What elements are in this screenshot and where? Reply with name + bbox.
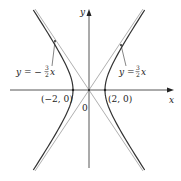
asymptote-negative-label: y = − 3 2 x [15, 64, 55, 78]
svg-text:y =: y = [118, 67, 135, 77]
svg-text:3: 3 [136, 64, 140, 71]
svg-text:x: x [141, 67, 146, 77]
vertex-right-point [104, 89, 106, 91]
y-axis-label: y [79, 7, 86, 17]
svg-text:2: 2 [45, 71, 49, 78]
vertex-left-label: (−2, 0) [41, 94, 73, 104]
asymptote-positive-label: y = 3 2 x [118, 64, 146, 78]
svg-text:2: 2 [136, 71, 140, 78]
svg-text:3: 3 [45, 64, 49, 71]
pointer-tip [54, 40, 56, 42]
pointer-tip [120, 44, 122, 46]
origin-label: 0 [82, 103, 88, 113]
asymptote-negative-pointer [52, 41, 55, 66]
vertex-right-label: (2, 0) [108, 94, 132, 104]
vertex-left-point [72, 89, 74, 91]
x-axis-label: x [169, 95, 174, 105]
y-axis-arrow-icon [87, 9, 92, 16]
origin-point [88, 89, 90, 91]
hyperbola-figure: y x 0 (−2, 0) (2, 0) y = − 3 2 x y = 3 2… [0, 0, 181, 181]
svg-text:x: x [50, 67, 55, 77]
x-axis-arrow-icon [167, 88, 174, 93]
svg-text:y = −: y = − [15, 67, 42, 77]
asymptote-positive-pointer [121, 45, 126, 66]
